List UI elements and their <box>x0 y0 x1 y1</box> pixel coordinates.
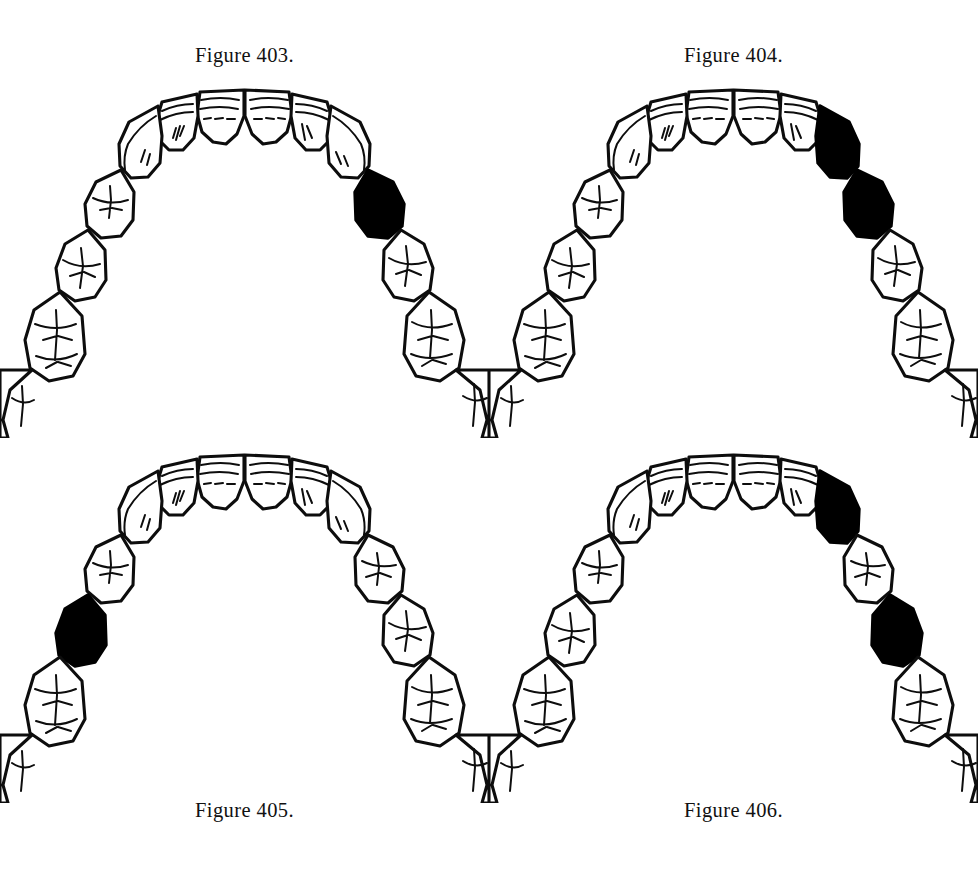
tooth-left-first-premolar <box>85 535 134 603</box>
tooth-right-second-molar <box>456 735 489 803</box>
tooth-left-second-molar <box>0 735 32 803</box>
dental-arch-406 <box>489 443 978 803</box>
tooth-left-second-molar <box>489 735 521 803</box>
dental-arch-405 <box>0 443 489 803</box>
figure-plate-404: Figure 404. <box>489 0 978 443</box>
tooth-right-canine <box>816 106 859 178</box>
tooth-left-first-premolar <box>574 535 623 603</box>
figure-plate-403: Figure 403. <box>0 0 489 443</box>
fissure-left-second-molar <box>501 751 523 791</box>
fissure-left-second-molar <box>12 751 34 791</box>
tooth-right-second-premolar <box>872 595 922 666</box>
tooth-right-second-molar <box>945 370 978 438</box>
tooth-right-second-molar <box>456 370 489 438</box>
tooth-left-second-premolar <box>56 595 106 666</box>
tooth-right-canine <box>816 471 859 543</box>
tooth-right-first-premolar <box>355 170 404 238</box>
tooth-left-second-molar <box>489 370 521 438</box>
figure-plate-406: Figure 406. <box>489 443 978 886</box>
figure-caption-405: Figure 405. <box>0 799 489 822</box>
arch-teeth-406 <box>489 455 978 803</box>
arch-teeth-405 <box>0 455 489 803</box>
figure-plate-405: Figure 405. <box>0 443 489 886</box>
figure-caption-403: Figure 403. <box>0 44 489 67</box>
tooth-left-second-molar <box>0 370 32 438</box>
fissure-left-second-molar <box>12 386 34 426</box>
tooth-left-first-premolar <box>574 170 623 238</box>
figure-caption-404: Figure 404. <box>489 44 978 67</box>
tooth-right-first-premolar <box>844 170 893 238</box>
arch-teeth-403 <box>0 90 489 438</box>
dental-arch-404 <box>489 78 978 438</box>
tooth-right-second-molar <box>945 735 978 803</box>
arch-teeth-404 <box>489 90 978 438</box>
tooth-left-first-premolar <box>85 170 134 238</box>
dental-arch-403 <box>0 78 489 438</box>
figure-caption-406: Figure 406. <box>489 799 978 822</box>
fissure-left-second-molar <box>501 386 523 426</box>
